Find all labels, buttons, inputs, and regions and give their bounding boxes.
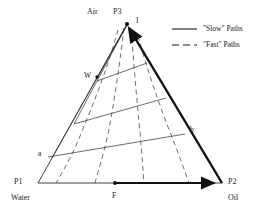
apex-component-label: Air	[87, 8, 98, 16]
point-label-I: I	[136, 17, 139, 25]
fast-path	[131, 30, 144, 183]
left-vertex-code-label: P1	[14, 178, 22, 186]
point-marker-F	[113, 181, 117, 185]
right-vertex-component-label: Oil	[228, 194, 238, 202]
fast-paths-group	[56, 28, 189, 183]
point-marker-W	[95, 75, 98, 78]
triangle-outline	[38, 24, 222, 183]
point-marker-I	[125, 22, 129, 26]
slow-tie-line	[74, 98, 166, 124]
point-label-b: b	[190, 126, 194, 134]
apex-code-label: P3	[113, 8, 121, 16]
fast-path	[95, 28, 124, 183]
point-label-F: F	[112, 192, 116, 200]
legend-label-slow: "Slow" Paths	[203, 25, 243, 33]
legend-label-fast: "Fast" Paths	[203, 41, 240, 49]
triangle-left-edge	[38, 24, 127, 183]
left-vertex-component-label: Water	[11, 194, 30, 202]
point-label-W: W	[84, 72, 91, 80]
slow-path	[74, 25, 127, 124]
fast-path	[56, 30, 118, 183]
point-label-a: a	[38, 150, 41, 158]
right-vertex-code-label: P2	[228, 178, 236, 186]
slow-paths-group	[48, 25, 185, 158]
slow-tie-line	[48, 134, 185, 157]
ternary-phase-diagram-figure: Air P3 P1 Water P2 Oil I W F a b "Slow" …	[0, 0, 256, 219]
bold-trajectory-right-edge	[129, 28, 222, 183]
